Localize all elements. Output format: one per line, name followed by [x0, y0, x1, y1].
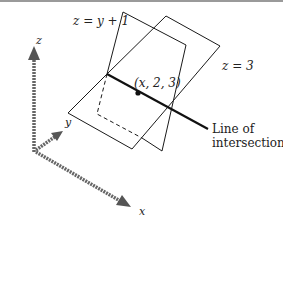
- label-y-axis: y: [64, 116, 72, 129]
- y-axis: [36, 131, 63, 150]
- axes: [28, 46, 131, 207]
- label-intersection: intersection: [212, 136, 283, 150]
- label-point: (x, 2, 3): [134, 76, 181, 90]
- label-plane-z-equals-3: z = 3: [221, 59, 254, 73]
- label-line-of: Line of: [212, 122, 256, 136]
- planes-intersection-diagram: z = y + 1 z = 3 (x, 2, 3) Line of inters…: [0, 0, 283, 288]
- label-z-axis: z: [35, 34, 42, 47]
- point-marker: [135, 90, 140, 95]
- label-x-axis: x: [139, 205, 146, 218]
- z-axis: [28, 46, 40, 152]
- x-axis: [36, 152, 131, 207]
- label-plane-z-equals-y-plus-1: z = y + 1: [72, 14, 129, 28]
